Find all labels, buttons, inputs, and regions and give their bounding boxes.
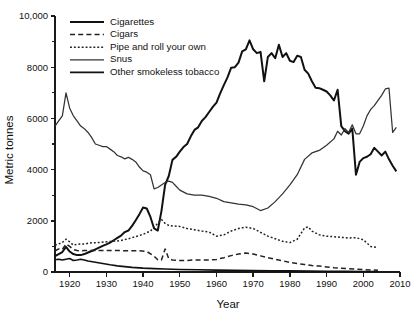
x-tick-label: 2010	[389, 278, 410, 289]
x-tick-label: 1980	[279, 278, 300, 289]
chart-legend: CigarettesCigarsPipe and roll your ownSn…	[70, 16, 219, 77]
series-line-cigars	[55, 244, 378, 270]
legend-label-cigars: Cigars	[110, 28, 138, 39]
legend-label-other-smokeless-tobacco: Other smokeless tobacco	[110, 66, 219, 77]
y-tick-label: 6000	[27, 113, 48, 124]
series-line-other-smokeless-tobacco	[55, 258, 378, 271]
y-axis-title: Metric tonnes	[3, 115, 15, 184]
line-chart-canvas: 0200040006000800010,000 1920193019401950…	[0, 0, 419, 314]
x-tick-label: 1970	[243, 278, 264, 289]
y-tick-label: 0	[43, 266, 48, 277]
legend-label-pipe-and-roll-your-own: Pipe and roll your own	[110, 41, 206, 52]
x-tick-label: 1950	[169, 278, 190, 289]
x-tick-label: 2000	[353, 278, 374, 289]
x-axis-tick-labels: 1920193019401950196019701980199020002010	[59, 278, 410, 289]
data-series-group	[55, 40, 396, 271]
y-tick-label: 8000	[27, 62, 48, 73]
y-axis-tick-labels: 0200040006000800010,000	[19, 10, 48, 277]
x-tick-label: 1920	[59, 278, 80, 289]
x-axis-title: Year	[216, 298, 239, 310]
x-tick-label: 1960	[206, 278, 227, 289]
series-line-snus	[55, 88, 396, 210]
x-tick-label: 1940	[133, 278, 154, 289]
legend-label-snus: Snus	[110, 53, 132, 64]
series-line-pipe-and-roll-your-own	[55, 220, 378, 248]
x-tick-label: 1990	[316, 278, 337, 289]
legend-label-cigarettes: Cigarettes	[110, 16, 154, 27]
chart-figure: 0200040006000800010,000 1920193019401950…	[0, 0, 419, 314]
y-tick-label: 4000	[27, 164, 48, 175]
y-tick-label: 2000	[27, 215, 48, 226]
y-tick-label: 10,000	[19, 10, 48, 21]
series-line-cigarettes	[55, 40, 396, 256]
x-tick-label: 1930	[96, 278, 117, 289]
